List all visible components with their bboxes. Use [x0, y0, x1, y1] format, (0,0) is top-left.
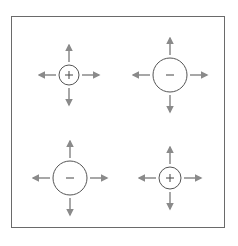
- charge-bottom-left: [33, 141, 107, 215]
- charge-top-left: [39, 45, 99, 105]
- diagram-canvas: [0, 0, 238, 246]
- charge-bottom-right: [139, 147, 201, 209]
- charge-top-right: [133, 38, 207, 112]
